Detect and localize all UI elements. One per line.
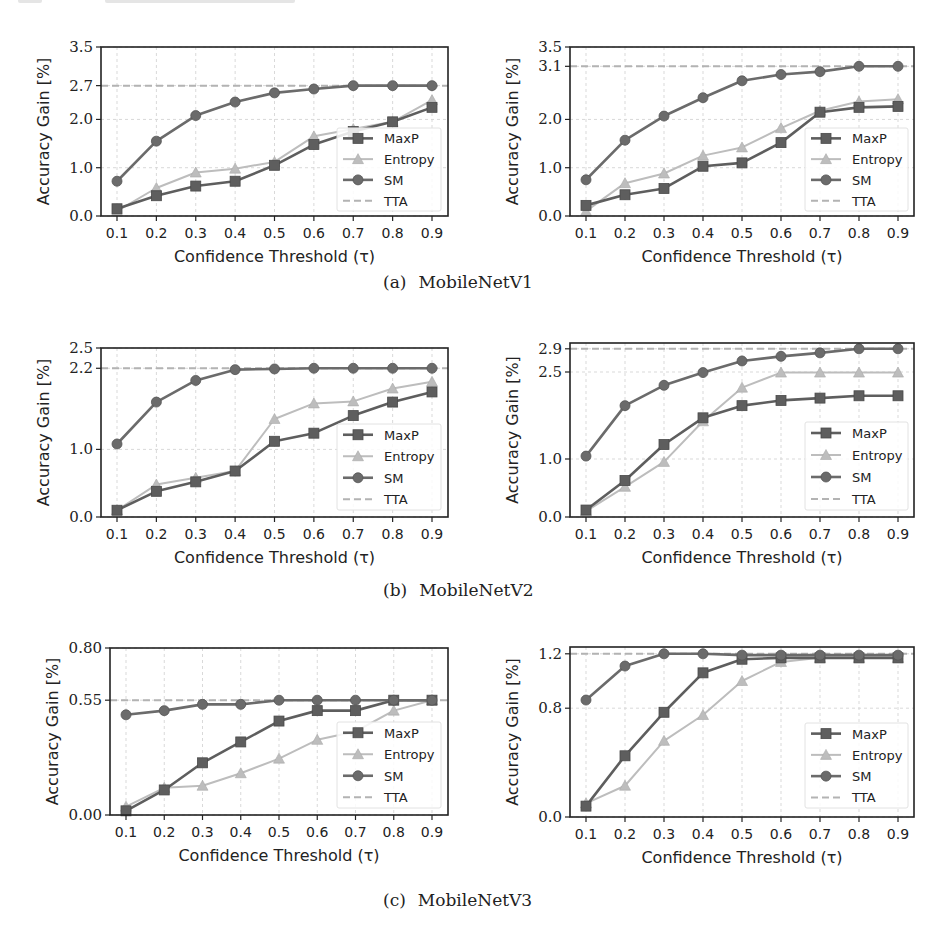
legend-label: TTA [851,492,876,507]
circle-marker [230,365,240,375]
y-axis-label: Accuracy Gain [%] [503,356,522,504]
y-tick-label: 0.55 [69,691,102,709]
legend-label: TTA [383,790,408,805]
x-tick-label: 0.6 [770,826,792,842]
square-marker [151,191,161,201]
y-tick-label: 2.2 [69,359,93,377]
y-tick-label: 0.0 [538,207,562,225]
x-tick-label: 0.2 [145,526,167,542]
x-tick-label: 0.4 [224,225,246,241]
circle-marker [698,368,708,378]
legend-label: SM [384,769,403,784]
y-tick-label: 0.80 [69,639,102,657]
x-tick-label: 0.9 [421,824,443,840]
y-tick-label: 0.0 [538,508,562,526]
circle-marker [815,67,825,77]
x-axis-label: Confidence Threshold (τ) [641,548,842,567]
x-tick-label: 0.2 [145,225,167,241]
y-tick-label: 3.5 [69,38,93,56]
circle-marker [893,61,903,71]
square-legend-icon [353,430,363,440]
x-tick-label: 0.1 [106,526,128,542]
circle-marker [270,88,280,98]
square-marker [388,397,398,407]
square-marker [854,102,864,112]
x-tick-label: 0.7 [342,225,364,241]
x-tick-label: 0.9 [887,225,909,241]
circle-marker [191,375,201,385]
square-marker [854,391,864,401]
circle-marker [388,81,398,91]
square-marker [309,428,319,438]
square-legend-icon [821,133,831,143]
caption-label: MobileNetV3 [418,890,532,910]
square-marker [236,737,246,747]
square-marker [270,160,280,170]
square-marker [737,401,747,411]
circle-legend-icon [821,771,831,781]
circle-marker [274,695,284,705]
square-marker [581,505,591,515]
legend-label: TTA [383,194,408,209]
x-tick-label: 0.3 [191,824,213,840]
caption-c: (c)MobileNetV3 [383,890,532,910]
circle-marker [389,695,399,705]
square-marker [581,801,591,811]
square-legend-icon [353,728,363,738]
chart-b-right: 0.01.02.52.90.10.20.30.40.50.60.70.80.9C… [503,340,914,567]
y-tick-label: 3.5 [538,38,562,56]
triangle-marker [274,753,285,763]
square-marker [737,158,747,168]
square-marker [659,707,669,717]
y-tick-label: 1.0 [69,440,93,458]
y-tick-label: 2.0 [69,110,93,128]
caption-label: MobileNetV1 [418,272,532,292]
x-tick-label: 0.3 [185,526,207,542]
square-marker [776,395,786,405]
caption-tag: (b) [383,580,407,600]
circle-marker [854,344,864,354]
chart-a-left: 0.01.02.02.73.50.10.20.30.40.50.60.70.80… [34,38,448,266]
legend-label: Entropy [384,152,435,167]
legend-label: Entropy [384,449,435,464]
square-marker [893,391,903,401]
square-marker [815,393,825,403]
circle-marker [151,136,161,146]
square-marker [151,486,161,496]
x-tick-label: 0.4 [692,526,714,542]
circle-marker [230,97,240,107]
square-marker [230,466,240,476]
x-tick-label: 0.1 [575,526,597,542]
y-axis-label: Accuracy Gain [%] [34,58,53,206]
circle-marker [776,70,786,80]
x-tick-label: 0.4 [224,526,246,542]
x-tick-label: 0.3 [185,225,207,241]
square-marker [309,140,319,150]
x-tick-label: 0.8 [848,225,870,241]
caption-b: (b)MobileNetV2 [383,580,533,600]
square-marker [659,183,669,193]
x-axis-label: Confidence Threshold (τ) [178,846,379,865]
circle-marker [427,81,437,91]
circle-marker [815,650,825,660]
circle-marker [191,111,201,121]
x-tick-label: 0.2 [614,826,636,842]
caption-a: (a)MobileNetV1 [383,272,533,292]
circle-marker [427,363,437,373]
x-axis-label: Confidence Threshold (τ) [174,247,375,266]
triangle-marker [776,123,787,133]
circle-marker [312,695,322,705]
y-axis-label: Accuracy Gain [%] [503,658,522,806]
x-tick-label: 0.5 [731,225,753,241]
circle-legend-icon [821,175,831,185]
circle-marker [112,176,122,186]
circle-marker [270,364,280,374]
square-marker [815,107,825,117]
square-marker [776,138,786,148]
circle-legend-icon [353,175,363,185]
circle-legend-icon [353,473,363,483]
x-tick-label: 0.7 [809,225,831,241]
circle-marker [737,76,747,86]
y-tick-label: 0.8 [538,699,562,717]
circle-marker [737,356,747,366]
